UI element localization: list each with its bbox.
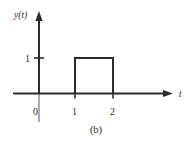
x-axis-arrow-icon [163, 90, 173, 97]
pulse-waveform [75, 58, 113, 94]
x-tick-label-0: 0 [33, 106, 38, 117]
figure-caption: (b) [0, 124, 192, 135]
x-tick-label-2: 2 [110, 106, 115, 117]
figure-container: y(t) t 1 0 1 2 (b) [0, 0, 192, 148]
x-tick-label-1: 1 [72, 106, 77, 117]
y-axis-label: y(t) [13, 10, 27, 21]
x-axis-label: t [179, 89, 182, 99]
y-tick-label-1: 1 [25, 53, 30, 64]
y-axis-arrow-icon [35, 11, 42, 21]
